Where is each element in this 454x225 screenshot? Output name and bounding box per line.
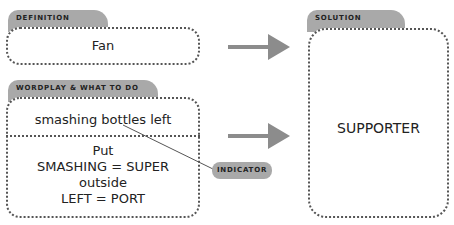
arrow-right-icon xyxy=(228,30,292,64)
solution-text: SUPPORTER xyxy=(308,120,449,136)
solution-label: SOLUTION xyxy=(315,14,361,22)
indicator-badge: INDICATOR xyxy=(212,162,272,179)
arrow-right-icon xyxy=(228,119,292,153)
